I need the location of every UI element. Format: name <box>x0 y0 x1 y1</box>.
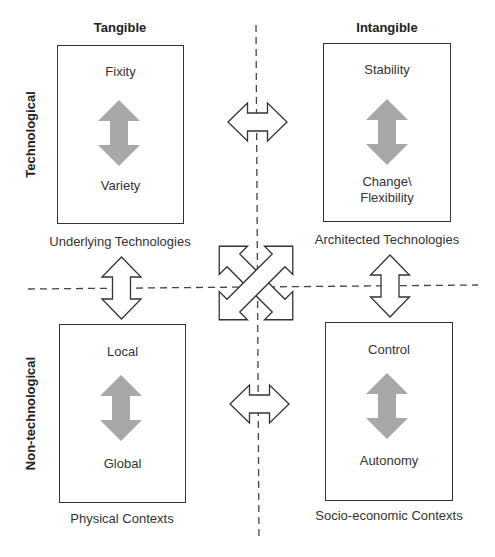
double-arrow-icon-vertical-left <box>102 257 141 319</box>
tension-arrow-icon-fixity-variety <box>98 100 140 166</box>
arrows-layer <box>0 0 495 557</box>
double-arrow-icon-horizontal-top <box>228 103 287 141</box>
tension-arrow-icon-local-global <box>100 375 142 441</box>
double-arrow-icon-vertical-right <box>371 255 410 317</box>
double-arrow-icon-horizontal-bottom <box>230 385 289 423</box>
diagram-canvas: Tangible Intangible Technological Non-te… <box>0 0 495 557</box>
tension-arrow-icon-control-autonomy <box>366 373 408 439</box>
tension-arrow-icon-stability-change <box>366 99 408 165</box>
crossed-diagonal-arrows-icon <box>205 232 307 334</box>
